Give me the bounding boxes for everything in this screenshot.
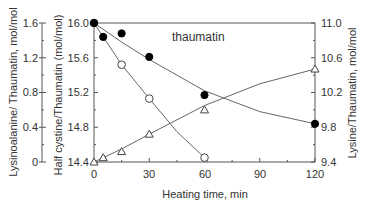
open-triangle-marker bbox=[311, 65, 319, 72]
filled-circle-marker bbox=[146, 53, 153, 60]
y-tick-label: 14.4 bbox=[68, 156, 89, 168]
chart-annotation: thaumatin bbox=[172, 30, 225, 44]
open-circle-marker bbox=[145, 95, 153, 103]
open-triangle-marker bbox=[145, 130, 153, 137]
left-outer-axis-title: Lysinoalanine/ Thaumatin, mol/mol bbox=[7, 7, 19, 176]
x-tick-label: 30 bbox=[143, 168, 155, 180]
y-tick-label: 0.4 bbox=[23, 121, 38, 133]
y-tick-label: 1.6 bbox=[23, 17, 38, 29]
x-axis-title: Heating time, min bbox=[162, 188, 248, 200]
filled-circle-marker bbox=[100, 33, 107, 40]
chart: 0 30 60 90 120 Heating time, min 0 0.4 0… bbox=[0, 0, 366, 203]
y-tick-label: 9.8 bbox=[321, 121, 336, 133]
filled-circle-marker bbox=[118, 30, 125, 37]
open-circle-marker bbox=[118, 61, 126, 69]
y-tick-label: 9.4 bbox=[321, 156, 336, 168]
right-axis-title: Lysine/Thaumatin, mol/mol bbox=[346, 27, 358, 158]
x-tick-label: 120 bbox=[306, 168, 324, 180]
y-tick-label: 10.6 bbox=[321, 52, 342, 64]
y-tick-label: 0.8 bbox=[23, 86, 38, 98]
curve-lysinoalanine bbox=[94, 69, 315, 162]
left-inner-axis-title: Half cystine/Thaumatin (mol/mol) bbox=[52, 15, 64, 176]
filled-circle-marker bbox=[201, 92, 208, 99]
left-inner-tick-labels: 14.4 14.8 15.2 15.6 16.0 bbox=[68, 17, 89, 168]
y-tick-label: 1.2 bbox=[23, 52, 38, 64]
y-tick-label: 11.0 bbox=[321, 17, 342, 29]
x-tick-labels: 0 30 60 90 120 bbox=[91, 168, 324, 180]
y-tick-label: 15.2 bbox=[68, 86, 89, 98]
filled-circle-marker bbox=[90, 19, 97, 26]
open-circle-marker bbox=[201, 154, 209, 162]
x-tick-label: 60 bbox=[199, 168, 211, 180]
open-triangle-marker bbox=[99, 154, 107, 161]
y-tick-label: 16.0 bbox=[68, 17, 89, 29]
x-tick-label: 90 bbox=[254, 168, 266, 180]
y-tick-label: 15.6 bbox=[68, 52, 89, 64]
right-tick-labels: 9.4 9.8 10.2 10.6 11.0 bbox=[321, 17, 342, 168]
open-triangle-marker bbox=[118, 148, 126, 155]
filled-circle-marker bbox=[311, 120, 318, 127]
left-outer-tick-labels: 0 0.4 0.8 1.2 1.6 bbox=[23, 17, 38, 168]
y-tick-label: 10.2 bbox=[321, 86, 342, 98]
y-tick-label: 14.8 bbox=[68, 121, 89, 133]
y-tick-label: 0 bbox=[32, 156, 38, 168]
x-tick-label: 0 bbox=[91, 168, 97, 180]
